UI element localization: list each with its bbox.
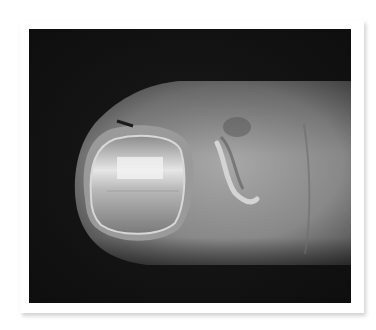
fingertip-photo bbox=[29, 29, 351, 303]
